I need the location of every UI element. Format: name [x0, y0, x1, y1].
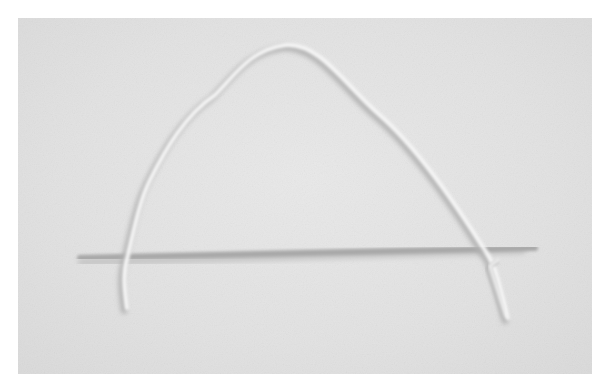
string-and-stick-illustration — [18, 18, 592, 374]
photo — [18, 18, 592, 374]
